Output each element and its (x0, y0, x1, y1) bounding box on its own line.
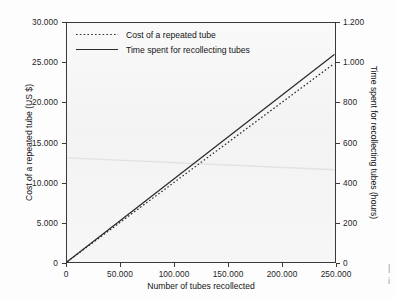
ticklabel-right-5: 1.000 (343, 57, 364, 67)
legend-dotted-line-icon (76, 31, 118, 38)
scan-artifact-line (67, 158, 335, 170)
ticklabel-bottom-5: 250.000 (321, 269, 352, 279)
legend-solid-line-icon (76, 46, 118, 53)
tick-left-5 (62, 62, 66, 63)
ticklabel-bottom-1: 50.000 (107, 269, 133, 279)
ticklabel-right-0: 0 (343, 258, 348, 268)
ticklabel-right-4: 800 (343, 97, 357, 107)
legend-item-time: Time spent for recollecting tubes (76, 42, 250, 57)
edge-artifact-mark-2: i (388, 275, 394, 288)
legend: Cost of a repeated tube Time spent for r… (76, 27, 250, 57)
tick-bottom-5 (336, 263, 337, 267)
tick-left-4 (62, 102, 66, 103)
data-lines (67, 23, 335, 262)
tick-bottom-2 (174, 263, 175, 267)
chart-figure: Cost of a repeated tube Time spent for r… (0, 0, 396, 298)
tick-bottom-1 (120, 263, 121, 267)
ticklabel-right-2: 400 (343, 178, 357, 188)
tick-right-5 (336, 62, 340, 63)
series-line-time-spent (67, 55, 334, 262)
ticklabel-bottom-2: 100.000 (159, 269, 190, 279)
tick-right-2 (336, 183, 340, 184)
ticklabel-right-6: 1.200 (343, 17, 364, 27)
series-line-cost (67, 64, 334, 262)
legend-label-time: Time spent for recollecting tubes (126, 45, 250, 55)
y-axis-right-title: Time spent for recollecting tubes (hours… (369, 22, 379, 263)
tick-left-6 (62, 22, 66, 23)
tick-right-6 (336, 22, 340, 23)
legend-item-cost: Cost of a repeated tube (76, 27, 250, 42)
tick-left-1 (62, 223, 66, 224)
ticklabel-bottom-4: 200.000 (267, 269, 298, 279)
ticklabel-bottom-3: 150.000 (213, 269, 244, 279)
y-axis-left-title: Cost of a repeated tube (US $) (24, 22, 34, 263)
edge-artifact-mark-1: | (388, 262, 394, 275)
plot-area (66, 22, 336, 263)
tick-right-1 (336, 223, 340, 224)
ticklabel-right-1: 200 (343, 218, 357, 228)
x-axis-title: Number of tubes recollected (66, 281, 336, 291)
tick-bottom-0 (66, 263, 67, 267)
tick-bottom-4 (282, 263, 283, 267)
legend-label-cost: Cost of a repeated tube (126, 30, 216, 40)
tick-right-3 (336, 143, 340, 144)
ticklabel-right-3: 600 (343, 138, 357, 148)
cropped-edge-artifact: | i (388, 262, 394, 288)
tick-left-3 (62, 143, 66, 144)
tick-right-4 (336, 102, 340, 103)
tick-left-2 (62, 183, 66, 184)
tick-bottom-3 (228, 263, 229, 267)
ticklabel-bottom-0: 0 (64, 269, 69, 279)
